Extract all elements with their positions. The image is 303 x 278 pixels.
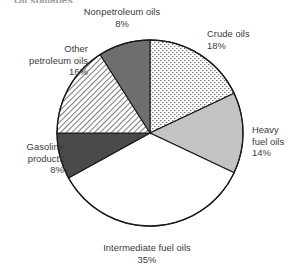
pie-label-heavy-fuel-oils: Heavy fuel oils 14%: [252, 124, 302, 159]
pie-label-intermediate-fuel-oils: Intermediate fuel oils 35%: [72, 242, 222, 265]
pie-label-heavy-fuel-oils-value: 14%: [252, 147, 302, 159]
pie-label-nonpetroleum-oils-name: Nonpetroleum oils: [84, 6, 160, 17]
pie-label-intermediate-fuel-oils-name: Intermediate fuel oils: [103, 242, 191, 253]
pie-label-gasoline-products-value: 8%: [2, 164, 64, 176]
pie-label-other-petroleum-oils-value: 16%: [4, 66, 88, 78]
pie-label-crude-oils-value: 18%: [207, 40, 297, 52]
pie-label-crude-oils-name: Crude oils: [207, 28, 250, 39]
pie-label-other-petroleum-oils-name-2: petroleum oils: [4, 55, 88, 67]
pie-chart-figure: Oil spillages Nonpetroleum oil: [0, 0, 303, 278]
pie-label-nonpetroleum-oils-value: 8%: [62, 18, 182, 30]
pie-label-gasoline-products-name-1: Gasoline: [27, 141, 64, 152]
pie-label-other-petroleum-oils: Other petroleum oils 16%: [4, 43, 88, 78]
pie-label-heavy-fuel-oils-name-2: fuel oils: [252, 136, 302, 148]
pie-label-other-petroleum-oils-name-1: Other: [64, 43, 88, 54]
pie-label-gasoline-products-name-2: products: [2, 153, 64, 165]
pie-label-heavy-fuel-oils-name-1: Heavy: [252, 124, 279, 135]
pie-label-crude-oils: Crude oils 18%: [207, 28, 297, 51]
pie-label-intermediate-fuel-oils-value: 35%: [72, 254, 222, 266]
pie-label-nonpetroleum-oils: Nonpetroleum oils 8%: [62, 6, 182, 29]
pie-label-gasoline-products: Gasoline products 8%: [2, 141, 64, 176]
